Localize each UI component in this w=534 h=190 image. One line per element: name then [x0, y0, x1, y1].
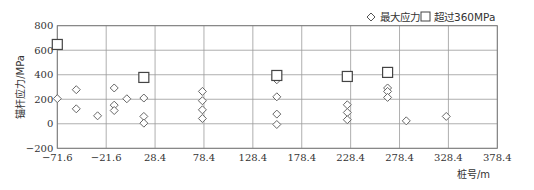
y-tick-label: 800	[34, 20, 53, 31]
data-point-diamond	[198, 97, 206, 105]
data-point-diamond	[123, 95, 131, 103]
x-tick-label: 78.4	[193, 152, 215, 163]
data-point-diamond	[343, 101, 351, 109]
data-point-diamond	[94, 112, 102, 120]
data-point-diamond	[198, 115, 206, 123]
legend: 最大应力 超过360MPa	[367, 11, 495, 23]
grid-lines	[57, 26, 497, 149]
data-point-diamond	[442, 112, 450, 120]
x-tick-label: 378.4	[483, 152, 512, 163]
y-tick-label: 400	[34, 69, 53, 80]
x-tick-label: −71.6	[42, 152, 73, 163]
data-point-diamond	[273, 110, 281, 118]
y-tick-label: 600	[34, 45, 53, 56]
y-axis-ticks: −2000200400600800	[26, 20, 53, 154]
legend-item-over-360: 超过360MPa	[421, 11, 495, 23]
data-point-diamond	[273, 121, 281, 129]
data-point-diamond	[72, 105, 80, 113]
x-axis-title: 桩号/m	[457, 168, 490, 180]
data-point-diamond	[53, 95, 61, 103]
data-point-square	[383, 67, 393, 77]
data-point-diamond	[110, 84, 118, 92]
data-points	[52, 39, 450, 128]
x-tick-label: 228.4	[336, 152, 365, 163]
scatter-chart: −2000200400600800 −71.6−21.628.478.4128.…	[0, 0, 534, 190]
plot-frame	[57, 26, 497, 149]
y-tick-label: 0	[47, 118, 53, 129]
data-point-diamond	[343, 116, 351, 124]
square-icon	[421, 12, 430, 21]
data-point-square	[342, 71, 352, 81]
plot-area-border	[57, 26, 497, 149]
data-point-diamond	[140, 94, 148, 102]
data-point-diamond	[198, 87, 206, 95]
data-point-diamond	[198, 106, 206, 114]
diamond-icon	[367, 13, 375, 21]
legend-label: 最大应力	[380, 11, 420, 23]
x-tick-label: 278.4	[385, 152, 414, 163]
data-point-diamond	[140, 119, 148, 127]
x-tick-label: 328.4	[434, 152, 463, 163]
data-point-diamond	[110, 107, 118, 115]
data-point-diamond	[384, 93, 392, 101]
y-tick-label: 200	[34, 94, 53, 105]
data-point-square	[139, 72, 149, 82]
data-point-square	[272, 70, 282, 80]
data-point-diamond	[72, 86, 80, 94]
x-tick-label: 178.4	[287, 152, 316, 163]
data-point-square	[52, 39, 62, 49]
x-axis-ticks: −71.6−21.628.478.4128.4178.4228.4278.432…	[42, 152, 512, 163]
x-tick-label: 128.4	[239, 152, 268, 163]
x-tick-label: −21.6	[91, 152, 122, 163]
legend-item-max-stress: 最大应力	[367, 11, 420, 23]
x-tick-label: 28.4	[144, 152, 166, 163]
y-axis-title: 锚杆应力/MPa	[14, 55, 26, 119]
legend-label: 超过360MPa	[434, 11, 495, 23]
